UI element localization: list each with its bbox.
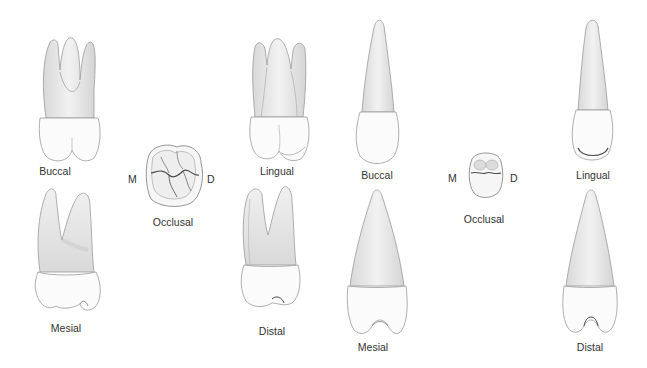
anterior-lingual-tooth-illustration (568, 16, 618, 164)
molar-mesial-label: Mesial (51, 323, 81, 334)
molar-mesial-tooth-illustration (30, 184, 106, 314)
anterior-buccal-tooth-illustration (352, 16, 402, 166)
anterior-buccal-label: Buccal (361, 170, 393, 181)
molar-occlusal-mesial-marker: M (128, 174, 137, 185)
anterior-mesial-label: Mesial (358, 342, 388, 353)
molar-distal-tooth-illustration (238, 185, 308, 315)
molar-buccal-tooth-illustration (30, 30, 110, 165)
molar-lingual-label: Lingual (260, 166, 294, 177)
dental-anatomy-figure: Buccal M D Occlusal Lingual Mesial Dista… (0, 0, 647, 368)
anterior-distal-tooth-illustration (560, 186, 620, 336)
molar-distal-label: Distal (259, 326, 285, 337)
anterior-occlusal-tooth-illustration (466, 149, 506, 199)
anterior-lingual-label: Lingual (576, 170, 610, 181)
anterior-distal-label: Distal (577, 342, 603, 353)
anterior-mesial-tooth-illustration (344, 186, 410, 338)
anterior-occlusal-distal-marker: D (510, 173, 518, 184)
molar-occlusal-tooth-illustration (143, 143, 205, 208)
molar-lingual-tooth-illustration (245, 35, 315, 165)
molar-occlusal-label: Occlusal (153, 217, 193, 228)
molar-occlusal-distal-marker: D (207, 174, 215, 185)
molar-buccal-label: Buccal (39, 166, 71, 177)
anterior-occlusal-label: Occlusal (464, 214, 504, 225)
anterior-occlusal-mesial-marker: M (448, 173, 457, 184)
